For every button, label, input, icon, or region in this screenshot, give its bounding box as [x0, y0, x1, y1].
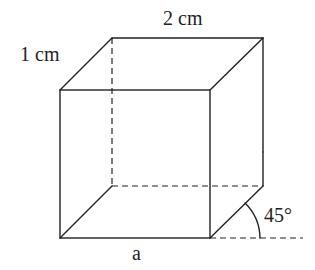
top-left-depth-edge	[60, 38, 112, 90]
label-top-edge: 2 cm	[163, 8, 202, 28]
cuboid-drawing	[0, 0, 315, 270]
label-angle: 45°	[264, 205, 292, 225]
bottom-right-depth-edge	[210, 186, 263, 238]
top-right-depth-edge	[210, 38, 263, 90]
label-bottom-edge: a	[132, 243, 141, 263]
label-depth-edge: 1 cm	[20, 44, 59, 64]
angle-arc	[245, 203, 260, 238]
bottom-left-depth-edge	[60, 186, 112, 238]
cuboid-diagram: 2 cm 1 cm a 45°	[0, 0, 315, 270]
